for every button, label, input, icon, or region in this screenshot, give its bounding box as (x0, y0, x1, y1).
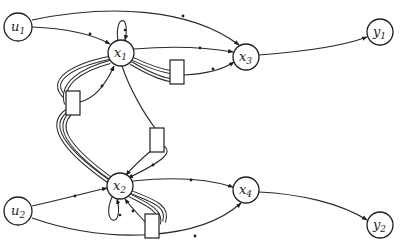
box-x2-self (145, 214, 159, 238)
edge-x2-x4 (133, 179, 233, 187)
edges-middle (58, 58, 167, 181)
edge-u2-x2 (32, 188, 107, 206)
node-y1: y1 (367, 19, 393, 45)
edge-x3-y1 (259, 37, 367, 55)
node-x3: x3 (233, 44, 259, 70)
node-x1: x1 (108, 40, 134, 66)
edge-x1-x3 (134, 47, 233, 52)
node-u2: u2 (4, 197, 32, 225)
edge-x2-self-loop (109, 197, 119, 220)
node-y2: y2 (367, 212, 393, 238)
edge-x4-y2 (259, 192, 367, 220)
box-x1-x3 (170, 60, 184, 84)
edge-u1-x1 (32, 27, 110, 44)
edge-box-x3 (184, 62, 234, 75)
edges-top (32, 11, 367, 80)
box-x1-x2-right (150, 128, 164, 152)
box-x1-x2-left (66, 91, 80, 115)
node-x4: x4 (233, 177, 259, 203)
edge-u1-x3 (32, 11, 239, 45)
edges-bottom (32, 179, 367, 238)
node-x2: x2 (107, 173, 133, 199)
edge-u2-x4 (32, 203, 241, 235)
edge-box-right-x2 (126, 150, 152, 175)
signal-flow-diagram: u1 x1 x3 y1 u2 x2 x4 y2 (0, 0, 401, 252)
node-u1: u1 (4, 13, 32, 41)
